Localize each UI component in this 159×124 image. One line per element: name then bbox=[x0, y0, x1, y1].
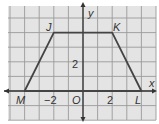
y-axis-up-arrow-icon bbox=[81, 2, 86, 7]
vertex-label-m: M bbox=[16, 94, 26, 106]
vertex-label-j: J bbox=[45, 21, 52, 33]
trapezoid-graph: y x O −2 2 2 J K L M bbox=[0, 0, 159, 124]
x-tick-label-2: 2 bbox=[107, 94, 113, 106]
x-tick-label-neg2: −2 bbox=[44, 94, 57, 106]
grid-background bbox=[8, 6, 156, 120]
coordinate-plane: y x O −2 2 2 J K L M bbox=[0, 0, 159, 124]
y-tick-label-2: 2 bbox=[72, 58, 78, 70]
origin-label: O bbox=[72, 94, 81, 106]
vertex-label-k: K bbox=[113, 21, 121, 33]
x-axis-label: x bbox=[148, 77, 155, 89]
vertex-label-l: L bbox=[135, 94, 141, 106]
x-axis-left-arrow-icon bbox=[4, 89, 9, 94]
